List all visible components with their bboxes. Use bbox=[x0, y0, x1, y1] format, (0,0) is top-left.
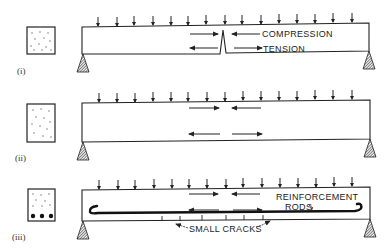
cross-section-reinforced bbox=[28, 189, 55, 221]
rod-dots bbox=[31, 214, 53, 218]
panel-label-i: (i) bbox=[17, 66, 26, 76]
label-tension: TENSION bbox=[263, 44, 305, 54]
beam-diagram: (i) COMPRESSION TENSION bbox=[0, 0, 391, 251]
cross-section-plain-deep bbox=[27, 104, 55, 142]
reinforcement-rod bbox=[90, 204, 362, 214]
panel-ii: (ii) bbox=[15, 90, 376, 163]
load-arrows-i bbox=[96, 13, 354, 27]
panel-iii: (iii) REINFORCEMENT RODS SMALL CRAC bbox=[12, 177, 376, 242]
support-right-iii bbox=[364, 219, 376, 237]
panel-i: (i) COMPRESSION TENSION bbox=[17, 13, 375, 76]
label-compression: COMPRESSION bbox=[262, 29, 333, 39]
support-left-iii bbox=[77, 221, 89, 239]
cross-section-plain bbox=[27, 27, 55, 54]
label-small-cracks: SMALL CRACKS bbox=[189, 224, 262, 234]
beam-ii bbox=[82, 100, 370, 142]
support-left-i bbox=[77, 54, 89, 72]
label-reinforcement: REINFORCEMENT bbox=[276, 192, 359, 202]
support-right-ii bbox=[364, 139, 376, 157]
label-rods: RODS bbox=[285, 202, 312, 212]
panel-label-iii: (iii) bbox=[12, 232, 26, 242]
panel-label-ii: (ii) bbox=[15, 153, 26, 163]
support-right-i bbox=[363, 51, 375, 69]
support-left-ii bbox=[77, 142, 89, 160]
